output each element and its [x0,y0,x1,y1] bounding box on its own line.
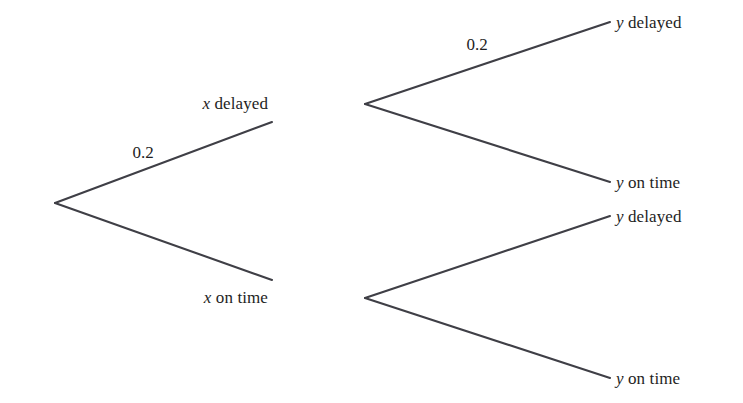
node-label-y-on-time-lower: y on time [616,370,680,387]
node-state-delayed: delayed [210,94,268,113]
node-state-on-time: on time [211,288,268,307]
node-label-y-delayed-upper: y delayed [616,14,682,31]
node-variable-x: x [202,94,210,113]
branch-line-group [55,22,610,378]
node-label-y-delayed-lower: y delayed [616,208,682,225]
branch-root-to-x-on-time [55,203,272,280]
probability-label-root-upper: 0.2 [132,144,153,161]
node-variable-x: x [204,288,212,307]
node-label-y-on-time-upper: y on time [616,174,680,191]
node-variable-y: y [616,13,624,32]
node-state-delayed: delayed [624,207,682,226]
node-state-delayed: delayed [624,13,682,32]
branch-x-on-time-to-y-on-time [365,298,610,378]
node-variable-y: y [616,173,624,192]
node-variable-y: y [616,207,624,226]
tree-branches [0,0,743,403]
probability-label-x-delayed-upper: 0.2 [466,36,487,53]
node-label-x-on-time: x on time [204,289,268,306]
branch-x-delayed-to-y-delayed [365,22,610,104]
branch-x-on-time-to-y-delayed [365,216,610,298]
branch-root-to-x-delayed [55,122,272,203]
tree-diagram-canvas: x delayed x on time y delayed y on time … [0,0,743,403]
node-label-x-delayed: x delayed [202,95,268,112]
node-variable-y: y [616,369,624,388]
node-state-on-time: on time [624,369,681,388]
node-state-on-time: on time [624,173,681,192]
branch-x-delayed-to-y-on-time [365,104,610,182]
